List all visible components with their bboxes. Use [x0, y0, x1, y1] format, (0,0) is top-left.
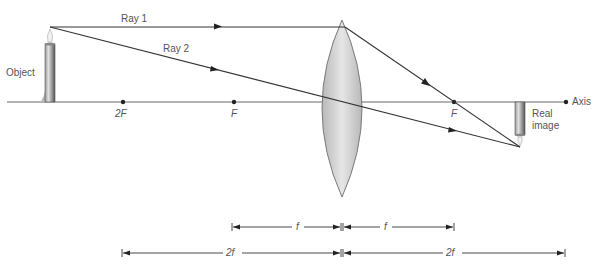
lens-ray-diagram: Object Ray 1 Ray 2 2F F F Axis Real imag…: [0, 0, 600, 269]
real-image-candle-icon: [515, 102, 525, 146]
diagram-canvas: [0, 0, 600, 269]
dimension-f-right-label: f: [384, 221, 387, 232]
ray-2-exit-arrow-icon: [448, 127, 457, 133]
two-f-point-icon: [121, 100, 125, 104]
focal-point-left-icon: [232, 100, 236, 104]
dimension-2f-right-label: 2f: [446, 247, 454, 258]
converging-lens: [322, 20, 362, 197]
dimension-f-left-label: f: [296, 221, 299, 232]
object-candle-icon: [40, 29, 55, 102]
ray-2-arrow-icon: [210, 66, 219, 72]
dimension-2f-left-label: 2f: [226, 247, 234, 258]
ray-1-label: Ray 1: [121, 13, 147, 24]
ray-1-arrow-icon: [214, 24, 222, 30]
real-image-label-line1: Real: [532, 108, 553, 119]
ray-1-refracted-arrow-icon: [421, 78, 430, 86]
dimension-lines: [122, 223, 565, 257]
optical-axis: [7, 100, 568, 104]
focal-point-left-label: F: [231, 108, 237, 119]
two-f-point-label: 2F: [115, 108, 127, 119]
focal-point-right-label: F: [451, 108, 457, 119]
ray-2-label: Ray 2: [163, 43, 189, 54]
axis-label: Axis: [572, 96, 591, 107]
object-label: Object: [6, 67, 35, 78]
real-image-label-line2: image: [532, 120, 559, 131]
